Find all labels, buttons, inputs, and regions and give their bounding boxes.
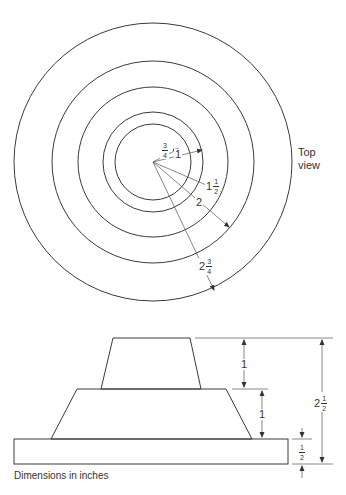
fraction-bar bbox=[321, 403, 327, 404]
dim-label-middle-tier: 1 bbox=[258, 409, 266, 420]
fraction: 12 bbox=[321, 395, 327, 412]
top-view-label-line1: Top bbox=[298, 146, 320, 159]
radius-label-1: 1 bbox=[174, 149, 182, 160]
dim-label-base: 12 bbox=[297, 444, 306, 461]
label-whole: 2 bbox=[196, 197, 202, 208]
dim-label-top-tier: 1 bbox=[240, 359, 248, 370]
denominator: 2 bbox=[300, 454, 304, 461]
dimensions-caption: Dimensions in inches bbox=[14, 471, 109, 481]
fraction-bar bbox=[206, 266, 212, 267]
top-view-label-line2: view bbox=[298, 159, 320, 172]
denominator: 2 bbox=[322, 405, 326, 412]
radius-label-1-1-2: 1 12 bbox=[205, 178, 220, 195]
denominator: 4 bbox=[163, 152, 167, 159]
numerator: 3 bbox=[163, 142, 167, 149]
dimension-lines bbox=[244, 340, 322, 478]
top-view-label: Top view bbox=[298, 146, 320, 172]
label-whole: 2 bbox=[314, 398, 320, 409]
numerator: 1 bbox=[300, 444, 304, 451]
technical-drawing bbox=[0, 0, 346, 495]
label-whole: 1 bbox=[206, 181, 212, 192]
radius-leaders bbox=[153, 149, 229, 290]
fraction: 34 bbox=[206, 258, 212, 275]
denominator: 4 bbox=[207, 268, 211, 275]
label-whole: 1 bbox=[259, 409, 265, 420]
denominator: 2 bbox=[214, 188, 218, 195]
fraction: 12 bbox=[299, 444, 305, 461]
radius-label-2: 2 bbox=[195, 197, 203, 208]
fraction: 34 bbox=[162, 142, 168, 159]
fraction: 12 bbox=[213, 178, 219, 195]
dim-label-total-height: 2 12 bbox=[313, 395, 328, 412]
numerator: 1 bbox=[214, 178, 218, 185]
numerator: 3 bbox=[207, 258, 211, 265]
label-whole: 1 bbox=[175, 149, 181, 160]
radius-label-2-3-4: 2 34 bbox=[198, 258, 213, 275]
side-view bbox=[14, 338, 288, 464]
fraction-bar bbox=[299, 452, 305, 453]
fraction-bar bbox=[162, 150, 168, 151]
fraction-bar bbox=[213, 186, 219, 187]
label-whole: 2 bbox=[199, 261, 205, 272]
numerator: 1 bbox=[322, 395, 326, 402]
radius-label-3-4: 34 bbox=[160, 142, 169, 159]
label-whole: 1 bbox=[241, 359, 247, 370]
